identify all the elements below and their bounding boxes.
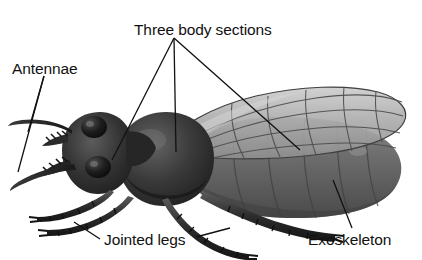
compound-eye bbox=[81, 116, 107, 138]
label-antennae: Antennae bbox=[12, 61, 78, 77]
insect-anatomy-diagram: Three body sections Antennae Jointed leg… bbox=[0, 0, 422, 260]
label-three-body-sections: Three body sections bbox=[134, 22, 272, 38]
label-exoskeleton: Exoskeleton bbox=[308, 232, 391, 248]
compound-eye bbox=[85, 156, 111, 178]
label-jointed-legs: Jointed legs bbox=[104, 232, 186, 248]
insect-illustration bbox=[0, 0, 422, 260]
